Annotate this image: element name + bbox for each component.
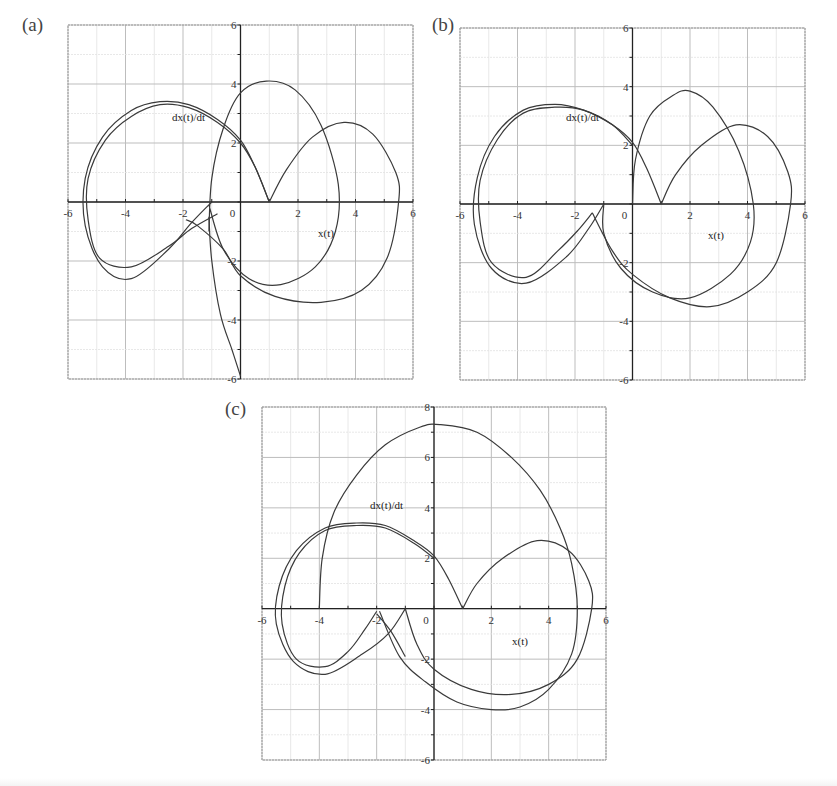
x-tick-label: -4 [121,207,131,219]
plot-c: -6-4-20246-6-4-22468dx(t)/dtx(t) [257,401,609,766]
plot-b: -6-4-20246-6-4-2246dx(t)/dtx(t) [455,22,808,386]
y-axis-label: dx(t)/dt [172,111,205,124]
x-tick-label: -4 [315,614,325,626]
x-tick-label: -4 [513,209,523,221]
plots-canvas: -6-4-20246-6-4-2246dx(t)/dtx(t)-6-4-2024… [0,0,837,786]
y-tick-label: -4 [619,315,629,327]
figure-stage: (a) (b) (c) -6-4-20246-6-4-2246dx(t)/dtx… [0,0,837,786]
y-tick-label: -6 [227,373,237,385]
curve-big-upper-arc [319,424,577,710]
x-tick-label: -6 [257,614,267,626]
x-tick-label: 2 [489,614,495,626]
y-tick-label: 4 [425,502,431,514]
plot-a: -6-4-20246-6-4-2246dx(t)/dtx(t) [63,19,416,385]
x-tick-label: -2 [570,209,579,221]
curve-outer-left-loop [83,101,269,279]
x-tick-label: 0 [622,209,628,221]
x-tick-label: 4 [353,207,359,219]
curve-right-lobe [186,122,400,302]
x-tick-label: 2 [687,209,693,221]
y-tick-label: 2 [231,137,237,149]
y-tick-label: -4 [227,314,237,326]
y-axis-label: dx(t)/dt [370,499,403,512]
x-axis-label: x(t) [708,229,724,242]
curve-tail [209,217,241,376]
curve-inner-left-loop [86,104,269,267]
x-tick-label: 0 [230,207,236,219]
x-tick-label: 2 [295,207,301,219]
y-tick-label: 2 [623,139,629,151]
y-tick-label: -6 [421,754,431,766]
curve-inner-left-loop [478,107,632,278]
y-tick-label: -4 [421,704,431,716]
x-tick-label: 6 [603,614,609,626]
curve-inner-left-loop [281,525,434,667]
x-axis-label: x(t) [512,635,528,648]
x-tick-label: 0 [423,614,429,626]
x-tick-label: -6 [63,207,73,219]
caption-band [0,778,837,786]
y-tick-label: 4 [623,81,629,93]
x-tick-label: -2 [178,207,187,219]
x-tick-label: -6 [455,209,465,221]
y-tick-label: 6 [425,451,431,463]
y-tick-label: 4 [231,78,237,90]
x-tick-label: 6 [410,207,416,219]
y-tick-label: -6 [619,374,629,386]
x-axis-label: x(t) [318,227,334,240]
y-tick-label: 8 [425,401,431,413]
y-axis-label: dx(t)/dt [566,111,599,124]
x-tick-label: 4 [745,209,751,221]
x-tick-label: 6 [802,209,808,221]
x-tick-label: 4 [546,614,552,626]
y-tick-label: 6 [623,22,629,34]
y-tick-label: 6 [231,19,237,31]
